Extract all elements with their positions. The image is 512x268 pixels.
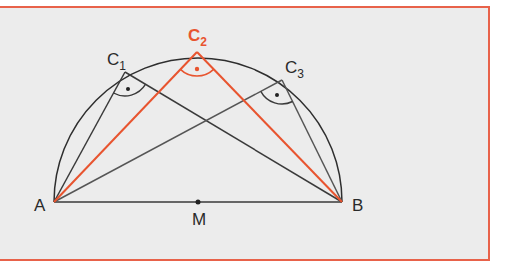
label-A: A — [34, 196, 46, 215]
right-angle-dot-C3 — [275, 93, 279, 97]
label-C1: C1 — [107, 50, 126, 73]
right-angle-dot-C2 — [195, 67, 199, 71]
right-angle-dot-C1 — [126, 87, 130, 91]
label-B: B — [352, 196, 363, 215]
thales-diagram: A B M C1 C2 C3 — [0, 0, 512, 268]
label-M: M — [192, 210, 206, 229]
label-C3: C3 — [285, 58, 304, 81]
label-C2: C2 — [188, 26, 207, 49]
midpoint-M-dot — [196, 200, 201, 205]
